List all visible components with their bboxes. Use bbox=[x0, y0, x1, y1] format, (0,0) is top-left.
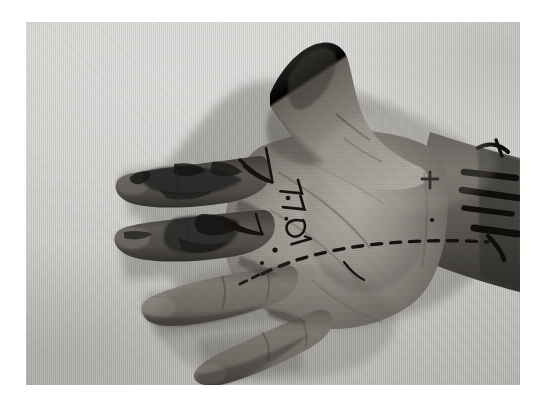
page-margin-right bbox=[520, 0, 539, 404]
page-margin-left bbox=[0, 0, 26, 404]
film-grain bbox=[26, 22, 520, 385]
page-margin-bottom bbox=[0, 385, 539, 404]
page-margin-top bbox=[0, 0, 539, 22]
clinical-photograph bbox=[26, 22, 520, 385]
figure-page bbox=[0, 0, 539, 404]
